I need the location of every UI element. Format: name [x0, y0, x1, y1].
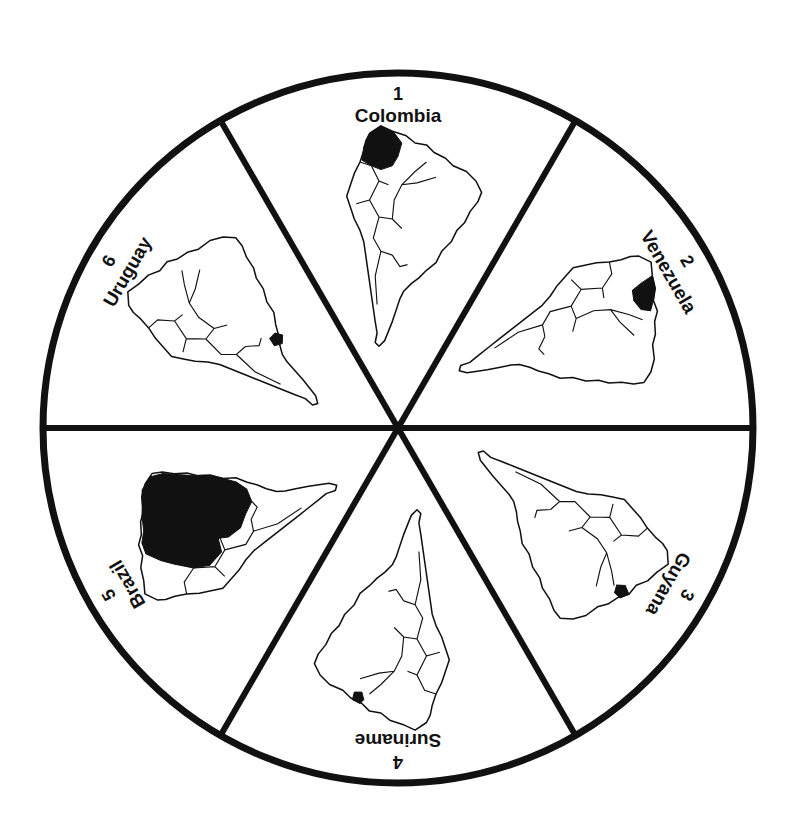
country-label: Colombia — [355, 105, 442, 126]
country-wheel: 1 Colombia 2 Venezuela 3 Guyana — [0, 0, 793, 837]
sector-number: 1 — [393, 84, 403, 104]
sector-number: 4 — [393, 752, 403, 772]
country-label: Suriname — [355, 730, 442, 751]
